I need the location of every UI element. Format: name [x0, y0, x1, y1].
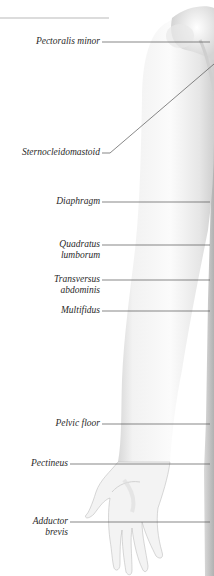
label-diaphragm: Diaphragm — [56, 196, 100, 207]
label-text: Sternocleidomastoid — [22, 147, 100, 157]
label-text: Pelvic floor — [55, 418, 100, 428]
label-text-line2: abdominis — [54, 285, 100, 296]
label-text-line2: brevis — [33, 527, 68, 538]
label-text-line1: Quadratus — [59, 239, 100, 250]
anatomy-diagram: Pectoralis minor Sternocleidomastoid Dia… — [0, 0, 214, 576]
label-text-line1: Adductor — [33, 516, 68, 527]
label-text: Diaphragm — [56, 196, 100, 206]
label-text-line2: lumborum — [59, 250, 100, 261]
label-text: Pectineus — [31, 458, 68, 468]
label-pelvic-floor: Pelvic floor — [55, 418, 100, 429]
arm-illustration — [0, 0, 214, 576]
label-quadratus-lumborum: Quadratus lumborum — [59, 239, 100, 261]
label-text-line1: Transversus — [54, 274, 100, 285]
label-transversus-abdominis: Transversus abdominis — [54, 274, 100, 296]
label-sternocleidomastoid: Sternocleidomastoid — [22, 147, 100, 158]
label-multifidus: Multifidus — [61, 305, 100, 316]
label-adductor-brevis: Adductor brevis — [33, 516, 68, 538]
label-text: Multifidus — [61, 305, 100, 315]
label-pectoralis-minor: Pectoralis minor — [36, 36, 100, 47]
hand — [85, 462, 170, 575]
label-text: Pectoralis minor — [36, 36, 100, 46]
label-pectineus: Pectineus — [31, 458, 68, 469]
